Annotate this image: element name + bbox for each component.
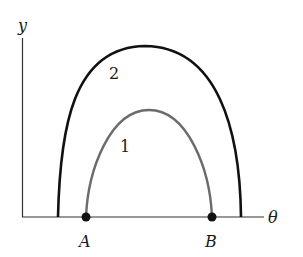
point-A-label: A — [77, 232, 91, 251]
curve-2 — [58, 46, 241, 217]
arch-diagram: y θ 2 1 A B — [0, 0, 303, 257]
curve-2-label: 2 — [109, 64, 119, 83]
point-B-marker — [208, 213, 217, 222]
point-A-marker — [82, 213, 91, 222]
x-axis-label: θ — [268, 208, 278, 227]
curve-1 — [86, 110, 212, 217]
y-axis-label: y — [17, 16, 28, 35]
point-B-label: B — [204, 232, 217, 251]
curve-1-label: 1 — [120, 137, 130, 156]
